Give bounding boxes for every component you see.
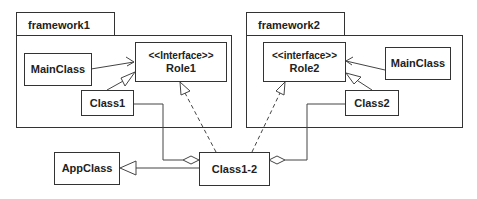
hollow-triangle-icon (121, 72, 135, 86)
class-mainclass-framework1: MainClass (24, 53, 92, 86)
class-name: Role2 (290, 62, 320, 75)
class-role2: <<interface>> Role2 (263, 42, 346, 82)
class-name: Class1 (90, 97, 125, 110)
class-appclass: AppClass (54, 152, 120, 185)
class-name: MainClass (31, 63, 85, 76)
hollow-triangle-icon (346, 73, 361, 84)
class-class2: Class2 (345, 90, 399, 116)
class-class1-2: Class1-2 (199, 152, 270, 186)
open-arrow-icon (126, 57, 134, 66)
stereotype-label: <<Interface>> (148, 49, 213, 62)
hollow-triangle-icon (120, 161, 136, 175)
class-class1: Class1 (81, 90, 134, 116)
class-name: AppClass (62, 162, 113, 175)
class-name: Class1-2 (212, 163, 257, 176)
diamond-icon (269, 156, 285, 164)
class-name: MainClass (391, 57, 445, 70)
stereotype-label: <<interface>> (272, 49, 337, 62)
class-name: Class2 (354, 97, 389, 110)
class-role1: <<Interface>> Role1 (135, 42, 227, 82)
class-name: Role1 (166, 62, 196, 75)
uml-diagram: framework1 framework2 (0, 0, 477, 199)
class-mainclass-framework2: MainClass (385, 47, 451, 80)
hollow-triangle-icon (276, 82, 285, 95)
diamond-icon (183, 156, 199, 164)
hollow-triangle-icon (180, 82, 190, 95)
